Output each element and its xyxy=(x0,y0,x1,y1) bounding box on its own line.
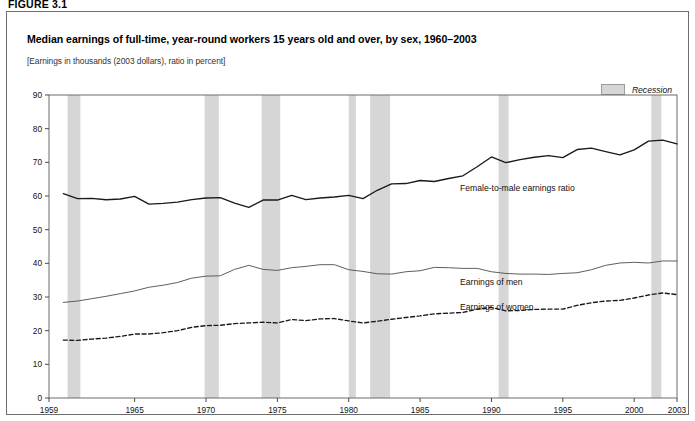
figure-label: FIGURE 3.1 xyxy=(8,0,67,10)
chart-plot: 0102030405060708090 19591965197019751980… xyxy=(7,12,690,416)
y-tick-label: 20 xyxy=(33,326,43,336)
x-tick-label: 2000 xyxy=(625,405,644,415)
y-tick-label: 30 xyxy=(33,292,43,302)
y-tick-label: 90 xyxy=(33,90,43,100)
x-tick-label: 1995 xyxy=(554,405,573,415)
x-tick-label: 1975 xyxy=(268,405,287,415)
y-tick-label: 40 xyxy=(33,258,43,268)
y-tick-label: 0 xyxy=(37,393,42,403)
recession-band xyxy=(499,95,509,398)
x-tick-label: 1959 xyxy=(40,405,59,415)
annotation-ratio: Female-to-male earnings ratio xyxy=(460,183,575,193)
x-tick-label: 2003 xyxy=(668,405,687,415)
recession-band xyxy=(68,95,81,398)
plot-frame xyxy=(49,95,677,398)
annotation-men: Earnings of men xyxy=(460,277,523,287)
recession-band xyxy=(370,95,390,398)
y-tick-label: 50 xyxy=(33,225,43,235)
x-tick-label: 1970 xyxy=(197,405,216,415)
y-axis: 0102030405060708090 xyxy=(33,90,49,403)
plot-border xyxy=(49,95,677,398)
recession-band xyxy=(262,95,281,398)
series-annotations: Female-to-male earnings ratioEarnings of… xyxy=(460,183,575,312)
recession-band xyxy=(205,95,219,398)
recession-band xyxy=(349,95,356,398)
annotation-women: Earnings of women xyxy=(460,302,534,312)
x-tick-label: 1965 xyxy=(125,405,144,415)
x-axis: 1959196519701975198019851990199520002003 xyxy=(40,398,687,415)
y-tick-label: 60 xyxy=(33,191,43,201)
figure-frame: Median earnings of full-time, year-round… xyxy=(6,11,689,415)
y-tick-label: 80 xyxy=(33,124,43,134)
recession-bands xyxy=(68,95,662,398)
y-tick-label: 10 xyxy=(33,359,43,369)
y-tick-label: 70 xyxy=(33,157,43,167)
x-tick-label: 1980 xyxy=(339,405,358,415)
x-tick-label: 1990 xyxy=(482,405,501,415)
x-tick-label: 1985 xyxy=(411,405,430,415)
